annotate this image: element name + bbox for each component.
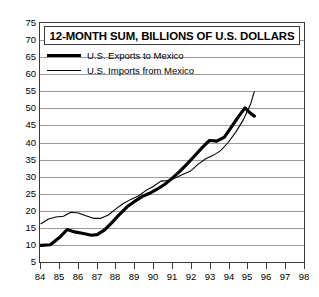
- x-axis-tick: [285, 263, 286, 269]
- x-axis-tick-label: 96: [256, 272, 276, 282]
- x-axis-tick-label: 94: [219, 272, 239, 282]
- y-axis-tick-label: 25: [6, 189, 36, 199]
- x-axis-tick: [266, 263, 267, 269]
- y-axis-tick-label: 70: [6, 35, 36, 45]
- legend-swatch-exports-icon: [47, 54, 81, 57]
- y-axis-tick-label: 75: [6, 18, 36, 28]
- y-axis-tick-label: 5: [6, 257, 36, 267]
- x-axis-tick: [153, 263, 154, 269]
- legend: U.S. Exports to Mexico U.S. Imports from…: [47, 48, 257, 78]
- x-axis-tick-label: 85: [49, 272, 69, 282]
- x-axis-tick: [97, 263, 98, 269]
- y-axis: 75706560555045403530252015105: [3, 0, 36, 297]
- x-axis-tick-label: 92: [181, 272, 201, 282]
- chart-container: 75706560555045403530252015105 12-MONTH S…: [0, 0, 319, 297]
- x-axis-tick: [172, 263, 173, 269]
- x-axis-tick: [210, 263, 211, 269]
- x-axis-tick: [191, 263, 192, 269]
- legend-swatch-imports-icon: [47, 70, 81, 71]
- x-axis-tick-label: 91: [162, 272, 182, 282]
- series-line-exports: [41, 108, 254, 245]
- x-axis-tick: [229, 263, 230, 269]
- x-axis-tick-label: 90: [143, 272, 163, 282]
- x-axis-tick-label: 93: [200, 272, 220, 282]
- y-axis-tick-label: 45: [6, 120, 36, 130]
- plot-area: 12-MONTH SUM, BILLIONS OF U.S. DOLLARS U…: [39, 22, 305, 263]
- y-axis-tick-label: 55: [6, 86, 36, 96]
- x-axis-tick-label: 86: [68, 272, 88, 282]
- x-axis-tick-label: 84: [30, 272, 50, 282]
- page-title: 12-MONTH SUM, BILLIONS OF U.S. DOLLARS: [50, 30, 295, 42]
- x-axis-tick: [304, 263, 305, 269]
- y-axis-tick-label: 50: [6, 103, 36, 113]
- y-axis-tick-label: 15: [6, 223, 36, 233]
- x-axis: 848586878889909192939495969798: [39, 263, 305, 293]
- x-axis-tick-label: 95: [237, 272, 257, 282]
- x-axis-tick-label: 98: [294, 272, 314, 282]
- x-axis-tick: [40, 263, 41, 269]
- x-axis-tick-label: 88: [105, 272, 125, 282]
- x-axis-tick-label: 89: [124, 272, 144, 282]
- chart-title-box: 12-MONTH SUM, BILLIONS OF U.S. DOLLARS: [44, 26, 300, 45]
- x-axis-tick: [115, 263, 116, 269]
- legend-label-exports: U.S. Exports to Mexico: [87, 51, 184, 61]
- x-axis-tick: [134, 263, 135, 269]
- x-axis-tick-label: 87: [87, 272, 107, 282]
- y-axis-tick-label: 40: [6, 138, 36, 148]
- x-axis-tick: [247, 263, 248, 269]
- y-axis-tick-label: 60: [6, 69, 36, 79]
- legend-item-exports: U.S. Exports to Mexico: [47, 48, 257, 63]
- y-axis-tick-label: 35: [6, 155, 36, 165]
- legend-item-imports: U.S. Imports from Mexico: [47, 63, 257, 78]
- legend-label-imports: U.S. Imports from Mexico: [87, 66, 194, 76]
- y-axis-tick-label: 10: [6, 240, 36, 250]
- series-line-imports: [41, 92, 254, 224]
- x-axis-tick: [78, 263, 79, 269]
- y-axis-tick-label: 20: [6, 206, 36, 216]
- x-axis-tick: [59, 263, 60, 269]
- x-axis-tick-label: 97: [275, 272, 295, 282]
- y-axis-tick-label: 30: [6, 172, 36, 182]
- y-axis-tick-label: 65: [6, 52, 36, 62]
